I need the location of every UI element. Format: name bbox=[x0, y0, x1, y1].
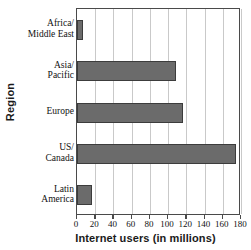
gridline bbox=[205, 9, 206, 214]
y-axis-tick-label-line: Africa/ bbox=[12, 18, 74, 29]
y-axis-tick-label-line: US/ bbox=[12, 142, 74, 153]
y-axis-tick-label: LatinAmerica bbox=[12, 184, 74, 205]
y-axis-category-labels: Africa/Middle EastAsia/PacificEuropeUS/C… bbox=[12, 8, 74, 215]
bar bbox=[77, 20, 83, 40]
y-axis-tick-label-line: Latin bbox=[12, 184, 74, 195]
y-axis-tick-label: US/Canada bbox=[12, 142, 74, 163]
y-axis-tick-label: Africa/Middle East bbox=[12, 18, 74, 39]
bar bbox=[77, 185, 92, 205]
y-axis-tick-label-line: Pacific bbox=[12, 70, 74, 81]
y-axis-tick-label: Asia/Pacific bbox=[12, 60, 74, 81]
y-axis-tick-label-line: Europe bbox=[12, 106, 74, 117]
x-axis-tick-label: 180 bbox=[227, 219, 251, 229]
bar bbox=[77, 61, 176, 81]
gridline bbox=[223, 9, 224, 214]
y-axis-tick-label-line: Asia/ bbox=[12, 60, 74, 71]
y-axis-tick-label-line: Middle East bbox=[12, 29, 74, 40]
plot-area bbox=[76, 8, 240, 215]
y-axis-tick-label-line: America bbox=[12, 194, 74, 205]
bar bbox=[77, 144, 236, 164]
gridline bbox=[186, 9, 187, 214]
gridline bbox=[241, 9, 242, 214]
x-axis-title: Internet users (in millions) bbox=[40, 232, 251, 244]
y-axis-tick-label: Europe bbox=[12, 106, 74, 117]
bar bbox=[77, 103, 183, 123]
bar-chart: Region Africa/Middle EastAsia/PacificEur… bbox=[0, 0, 251, 250]
y-axis-tick-label-line: Canada bbox=[12, 153, 74, 164]
